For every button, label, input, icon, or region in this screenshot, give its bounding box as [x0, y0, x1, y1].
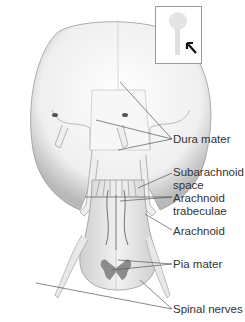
diagram: Dura mater Subarachnoid space Arachnoid … — [0, 0, 245, 322]
label-line: Arachnoid — [173, 192, 227, 205]
label-arachnoid: Arachnoid — [173, 225, 225, 238]
label-line: trabeculae — [173, 205, 227, 218]
body-thumbnail-icon — [156, 7, 201, 63]
label-arachnoid-trabeculae: Arachnoid trabeculae — [173, 192, 227, 218]
label-subarachnoid-space: Subarachnoid space — [173, 166, 244, 192]
locator-inset — [155, 6, 202, 64]
arrow-icon — [187, 43, 196, 53]
label-line: Subarachnoid — [173, 166, 244, 179]
label-line: space — [173, 179, 244, 192]
spinal-meninges-illustration — [0, 0, 245, 322]
label-dura-mater: Dura mater — [173, 133, 231, 146]
label-spinal-nerves: Spinal nerves — [173, 303, 243, 316]
label-pia-mater: Pia mater — [173, 258, 222, 271]
